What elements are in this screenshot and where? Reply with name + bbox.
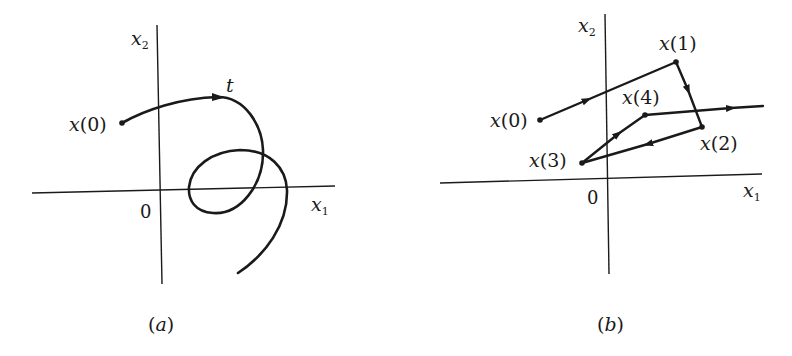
segment-2-3 (582, 127, 702, 163)
start-label: x(0) (69, 113, 107, 135)
direction-arrow-icon (212, 93, 225, 101)
label-x1: x(1) (659, 32, 697, 54)
figure: x2 x1 0 x(0) t (a) (0, 0, 792, 356)
start-point (119, 120, 125, 126)
point-x2 (699, 124, 705, 130)
point-x1 (673, 59, 679, 65)
panel-a: x2 x1 0 x(0) t (a) (32, 25, 335, 335)
segment-4-out (645, 106, 763, 115)
caption-a: (a) (148, 313, 174, 335)
y-axis-label: x2 (578, 14, 596, 39)
origin-label: 0 (587, 187, 598, 208)
label-x4: x(4) (622, 86, 660, 108)
caption-b: (b) (597, 313, 624, 335)
origin-label: 0 (140, 201, 151, 222)
panel-b: x2 x1 0 x(0) x(1) x(2) x(3) x(4) (b) (440, 14, 763, 335)
point-x0 (537, 117, 543, 123)
y-axis (157, 25, 162, 284)
label-x3: x(3) (529, 149, 567, 171)
x-axis-label: x1 (311, 193, 329, 218)
segment-1-2 (676, 62, 702, 127)
y-axis-label: x2 (131, 27, 149, 52)
segment-3-4 (582, 115, 645, 163)
x-axis-label: x1 (743, 179, 761, 204)
direction-label: t (226, 74, 234, 96)
label-x0: x(0) (490, 109, 528, 131)
point-x4 (642, 112, 648, 118)
continuous-trajectory (122, 97, 287, 273)
x-axis (440, 174, 762, 183)
x-axis (32, 186, 335, 193)
point-x3 (579, 160, 585, 166)
label-x2: x(2) (700, 132, 738, 154)
